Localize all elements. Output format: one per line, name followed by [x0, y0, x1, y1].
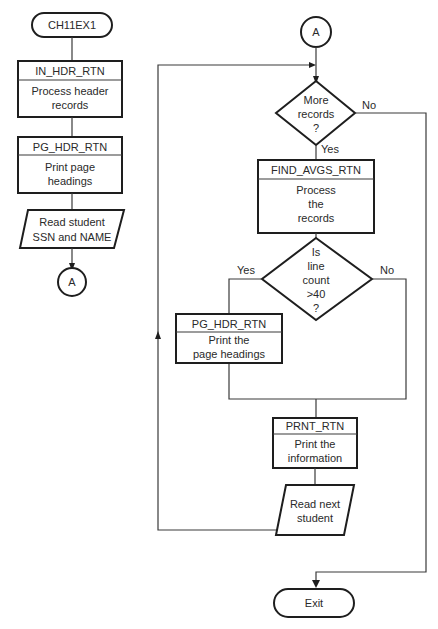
process-name: FIND_AVGS_RTN: [271, 164, 361, 176]
connector-a-right: A: [301, 17, 331, 47]
process-text: page headings: [193, 348, 266, 360]
input-text: student: [297, 512, 333, 524]
process-box-pg-hdr: PG_HDR_RTN Print page headings: [18, 137, 122, 193]
process-text: Print the: [209, 334, 250, 346]
process-text: Print page: [45, 161, 95, 173]
process-text: Process header: [31, 85, 108, 97]
process-box-prnt: PRNT_RTN Print the information: [273, 418, 357, 468]
no-label: No: [362, 99, 376, 111]
process-name: PG_HDR_RTN: [192, 318, 266, 330]
input-text: Read next: [290, 498, 340, 510]
process-name: PRNT_RTN: [286, 420, 345, 432]
decision-text: Is: [312, 246, 321, 258]
process-name: PG_HDR_RTN: [33, 141, 107, 153]
exit-terminal: Exit: [274, 589, 354, 617]
input-text: Read student: [39, 216, 104, 228]
process-text: records: [298, 212, 335, 224]
decision-text: ?: [313, 302, 319, 314]
decision-text: ?: [313, 122, 319, 134]
yes-label: Yes: [321, 143, 339, 155]
yes-branch-line: [229, 279, 262, 314]
decision-text: count: [303, 274, 330, 286]
decision-text: records: [298, 108, 335, 120]
process-box-find-avgs: FIND_AVGS_RTN Process the records: [258, 160, 374, 233]
exit-terminal-label: Exit: [305, 597, 323, 609]
arrowhead-up-icon: [155, 331, 161, 339]
arrowhead-icon: [309, 62, 316, 68]
decision-more-records: More records ? No Yes: [276, 81, 376, 155]
process-text: the: [308, 198, 323, 210]
input-read-student: Read student SSN and NAME: [20, 210, 124, 248]
left-flowchart: CH11EX1 IN_HDR_RTN Process header record…: [18, 13, 124, 296]
connector-label: A: [312, 26, 320, 38]
right-flowchart: A More records ? No Yes FIND_AVGS_RTN Pr…: [155, 17, 426, 617]
connector-label: A: [68, 276, 76, 288]
input-read-next: Read next student: [276, 485, 354, 535]
input-text: SSN and NAME: [33, 231, 112, 243]
yes-label: Yes: [237, 264, 255, 276]
no-label: No: [380, 264, 394, 276]
process-box-pg-hdr-right: PG_HDR_RTN Print the page headings: [176, 314, 282, 363]
decision-text: >40: [307, 288, 326, 300]
process-name: IN_HDR_RTN: [35, 65, 105, 77]
process-text: Print the: [295, 438, 336, 450]
decision-text: line: [307, 260, 324, 272]
start-terminal-label: CH11EX1: [48, 19, 96, 31]
process-text: records: [52, 99, 89, 111]
process-text: Process: [296, 184, 336, 196]
arrowhead-icon: [312, 580, 320, 588]
decision-text: More: [303, 94, 328, 106]
process-box-in-hdr: IN_HDR_RTN Process header records: [18, 61, 122, 117]
flowchart-canvas: CH11EX1 IN_HDR_RTN Process header record…: [0, 0, 438, 629]
process-text: headings: [48, 175, 93, 187]
start-terminal: CH11EX1: [32, 13, 112, 37]
process-text: information: [288, 452, 342, 464]
connector-a-left: A: [58, 268, 86, 296]
